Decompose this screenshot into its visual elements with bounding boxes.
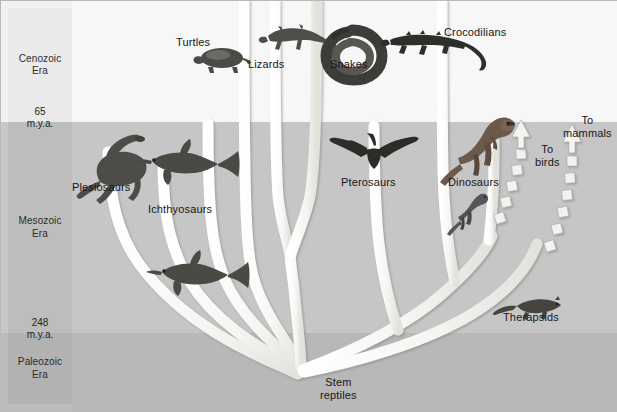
taxon-label-therapsids: Therapsids [503, 311, 559, 324]
taxon-label-plesiosaurs: Plesiosaurs [72, 181, 131, 194]
arrow-label-to-mammals: To mammals [563, 114, 612, 139]
taxon-label-pterosaurs: Pterosaurs [341, 176, 396, 189]
taxon-label-crocodilians: Crocodilians [444, 26, 506, 39]
phylogenetic-tree-graphic [0, 0, 617, 412]
era-label-paleozoic-text: Paleozoic Era [18, 356, 62, 380]
era-label-cenozoic-text: Cenozoic Era [19, 53, 62, 77]
pterosaur-silhouette [330, 133, 419, 169]
boundary-age-65: 65 m.y.a. [8, 106, 72, 130]
era-label-mesozoic: Mesozoic Era [8, 122, 72, 333]
taxon-label-snakes: Snakes [330, 58, 368, 71]
taxon-label-ichthyosaurs: Ichthyosaurs [148, 203, 212, 216]
era-label-paleozoic: Paleozoic Era [8, 333, 72, 404]
boundary-age-248: 248 m.y.a. [8, 317, 72, 341]
taxon-label-dinosaurs: Dinosaurs [448, 176, 499, 189]
taxon-label-turtles: Turtles [176, 36, 210, 49]
arrow-label-to-birds: To birds [535, 143, 560, 168]
taxon-label-stem-reptiles: Stem reptiles [320, 376, 357, 401]
era-label-cenozoic: Cenozoic Era [8, 8, 72, 122]
ichthyosaur-silhouette [136, 139, 240, 185]
taxon-label-lizards: Lizards [248, 58, 285, 71]
reptile-phylogeny-figure: Cenozoic Era Mesozoic Era Paleozoic Era … [0, 0, 617, 412]
snake-silhouette [326, 28, 382, 80]
dinosaur-silhouette [447, 194, 488, 236]
era-label-mesozoic-text: Mesozoic Era [18, 215, 61, 239]
